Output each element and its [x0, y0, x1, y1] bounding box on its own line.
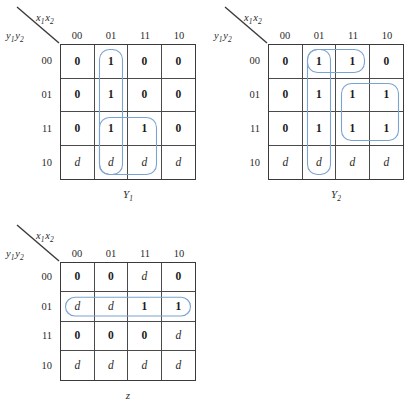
kmap-cell: 1: [128, 292, 162, 321]
cell-value: 0: [175, 56, 181, 68]
kmap-cell: 0: [162, 79, 196, 113]
kmap-cell: d: [162, 322, 196, 351]
cell-value: 0: [141, 89, 147, 101]
cell-value: d: [108, 360, 114, 372]
kmap-cell: 1: [303, 112, 337, 146]
cell-value: d: [108, 157, 114, 169]
kmap-cell: 0: [162, 45, 196, 79]
cell-value: 1: [316, 89, 322, 101]
row-var-2: y2: [15, 248, 23, 259]
kmap-cell: 0: [128, 45, 162, 79]
cell-value: d: [74, 360, 80, 372]
kmap-cell: d: [61, 146, 95, 180]
column-header: 01: [94, 249, 128, 260]
kmap-grid-z: 00d0dd11000ddddd: [60, 262, 196, 381]
cell-value: d: [175, 360, 181, 372]
cell-value: 0: [74, 56, 80, 68]
column-header: 10: [162, 249, 196, 260]
col-var-2: x2: [45, 230, 53, 241]
column-variable-label: x1 x2: [36, 231, 54, 244]
column-header: 00: [60, 249, 94, 260]
cell-value: d: [74, 301, 80, 313]
cell-value: d: [175, 330, 181, 342]
cell-value: 0: [141, 56, 147, 68]
cell-value: 0: [175, 123, 181, 135]
cell-value: 1: [141, 123, 147, 135]
kmap-cell: 1: [95, 79, 129, 113]
row-variable-label: y1 y2: [6, 249, 24, 262]
cell-value: 0: [282, 123, 288, 135]
kmap-cell: d: [336, 146, 370, 180]
cell-value: 0: [175, 271, 181, 283]
cell-value: 1: [316, 56, 322, 68]
kmap-cell: 1: [370, 79, 404, 113]
cell-value: 1: [349, 89, 355, 101]
row-header: 11: [20, 331, 52, 342]
cell-value: 1: [316, 123, 322, 135]
cell-value: 0: [282, 89, 288, 101]
kmap-cell: d: [95, 351, 129, 380]
cell-value: 0: [175, 89, 181, 101]
cell-value: 1: [175, 301, 181, 313]
column-header: 11: [128, 249, 162, 260]
cell-value: 1: [108, 123, 114, 135]
kmap-cell: d: [95, 146, 129, 180]
cell-value: d: [74, 157, 80, 169]
cell-value: 1: [141, 301, 147, 313]
cell-value: d: [141, 360, 147, 372]
kmap-cell: 0: [370, 45, 404, 79]
kmap-cell: d: [162, 351, 196, 380]
kmap-cell: d: [95, 292, 129, 321]
cell-value: d: [349, 157, 355, 169]
cell-value: 0: [141, 330, 147, 342]
kmap-grid-Y1: 010001000110dddd: [60, 44, 196, 180]
row-header: 01: [20, 302, 52, 313]
cell-value: d: [175, 157, 181, 169]
cell-value: d: [108, 301, 114, 313]
kmap-cell: d: [128, 351, 162, 380]
cell-value: 1: [383, 89, 389, 101]
kmap-cell: 0: [162, 263, 196, 292]
row-var-1: y1: [6, 248, 14, 259]
cell-value: 0: [383, 56, 389, 68]
kmap-cell: 0: [128, 322, 162, 351]
kmap-cell: d: [162, 146, 196, 180]
cell-value: d: [141, 157, 147, 169]
kmap-cell: 0: [61, 112, 95, 146]
kmap-cell: 0: [61, 263, 95, 292]
cell-value: 1: [108, 56, 114, 68]
cell-value: 0: [108, 271, 114, 283]
kmap-cell: 0: [269, 79, 303, 113]
row-header: 10: [20, 361, 52, 372]
kmap-cell: d: [128, 263, 162, 292]
kmap-cell: d: [370, 146, 404, 180]
kmap-cell: 1: [128, 112, 162, 146]
cell-value: 1: [349, 123, 355, 135]
kmap-cell: 1: [303, 79, 337, 113]
kmap-cell: 1: [303, 45, 337, 79]
row-header: 00: [20, 272, 52, 283]
cell-value: 0: [74, 271, 80, 283]
cell-value: d: [316, 157, 322, 169]
kmap-cell: d: [303, 146, 337, 180]
kmap-cell: 1: [95, 45, 129, 79]
kmap-cell: 0: [61, 45, 95, 79]
kmap-cell: d: [61, 292, 95, 321]
kmap-cell: d: [61, 351, 95, 380]
kmap-cell: 1: [162, 292, 196, 321]
kmap-cell: 1: [336, 79, 370, 113]
kmap-cell: 1: [336, 112, 370, 146]
kmap-caption-z: z: [88, 390, 168, 401]
kmap-cell: 0: [162, 112, 196, 146]
caption-text: z: [126, 389, 130, 401]
col-var-1: x1: [36, 230, 44, 241]
kmap-cell: 0: [269, 45, 303, 79]
cell-value: 0: [74, 123, 80, 135]
cell-value: 0: [74, 330, 80, 342]
cell-value: 1: [349, 56, 355, 68]
kmap-cell: d: [269, 146, 303, 180]
cell-value: 0: [74, 89, 80, 101]
cell-value: 1: [383, 123, 389, 135]
kmap-cell: 1: [370, 112, 404, 146]
cell-value: 1: [108, 89, 114, 101]
